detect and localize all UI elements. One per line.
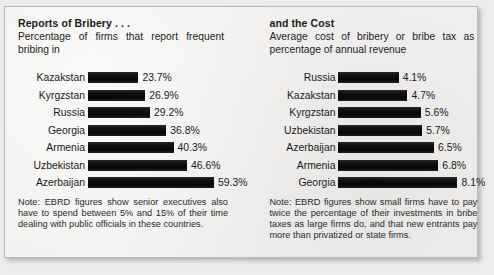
bar-row: Azerbaijan59.3% (18, 174, 247, 192)
bar-rect (88, 125, 166, 136)
bar-category-label: Kazakstan (269, 90, 335, 101)
bar-row: Kyrgzstan26.9% (18, 87, 247, 105)
chart-subtitle-cost: Average cost of bribery or bribe tax as … (269, 31, 474, 56)
bar-row: Georgia8.1% (269, 174, 485, 192)
bar-chart-cost: Russia4.1%Kazakstan4.7%Kyrgzstan5.6%Uzbe… (269, 69, 485, 192)
chart-note-bribery: Note: EBRD figures show senior executive… (18, 197, 228, 230)
bar-category-label: Azerbaijan (18, 177, 85, 188)
bar-value-label: 40.3% (178, 142, 207, 153)
bar-row: Uzbekistan46.6% (18, 157, 247, 175)
bar-rect (88, 90, 145, 101)
bar-value-label: 4.1% (403, 72, 427, 83)
bar-rect (338, 90, 407, 101)
bar-value-label: 5.6% (425, 107, 449, 118)
bar-rect (338, 125, 422, 136)
bar-value-label: 26.9% (149, 90, 178, 101)
bar-category-label: Uzbekistan (269, 125, 335, 136)
chart-note-cost: Note: EBRD figures show small firms have… (269, 197, 477, 241)
bar-value-label: 8.1% (461, 177, 485, 188)
bar-category-label: Russia (269, 72, 335, 83)
bar-category-label: Kyrgzstan (269, 107, 335, 118)
bar-category-label: Georgia (18, 125, 85, 136)
bar-row: Azerbaijan6.5% (269, 139, 485, 157)
bar-rect (338, 142, 434, 153)
bar-value-label: 23.7% (142, 72, 171, 83)
bar-row: Kazakstan4.7% (269, 87, 485, 105)
bar-row: Russia29.2% (18, 104, 247, 122)
bar-chart-bribery: Kazakstan23.7%Kyrgzstan26.9%Russia29.2%G… (18, 69, 247, 192)
bar-value-label: 5.7% (426, 125, 450, 136)
bar-category-label: Kyrgzstan (18, 90, 85, 101)
bar-row: Armenia6.8% (269, 157, 485, 175)
bar-rect (88, 107, 150, 118)
bar-value-label: 59.3% (218, 177, 247, 188)
bar-rect (88, 142, 174, 153)
bar-value-label: 4.7% (411, 90, 435, 101)
bar-category-label: Kazakstan (18, 72, 85, 83)
bar-rect (88, 177, 214, 188)
bar-value-label: 36.8% (170, 125, 199, 136)
bar-rect (338, 177, 457, 188)
bar-rect (338, 72, 398, 83)
bar-category-label: Georgia (269, 177, 335, 188)
bar-category-label: Armenia (269, 160, 335, 171)
bar-category-label: Azerbaijan (269, 142, 335, 153)
chart-panel-cost: and the Cost Average cost of bribery or … (259, 7, 494, 257)
bar-rect (338, 107, 420, 118)
panel-columns: Reports of Bribery . . . Percentage of f… (5, 7, 477, 257)
chart-title-cost: and the Cost (269, 17, 485, 30)
chart-subtitle-bribery: Percentage of firms that report frequent… (18, 31, 224, 56)
bar-row: Uzbekistan5.7% (269, 122, 485, 140)
bar-value-label: 46.6% (191, 160, 220, 171)
bar-row: Georgia36.8% (18, 122, 247, 140)
bar-rect (88, 160, 187, 171)
bar-row: Kyrgzstan5.6% (269, 104, 485, 122)
bar-row: Armenia40.3% (18, 139, 247, 157)
bar-category-label: Russia (18, 107, 85, 118)
bar-row: Russia4.1% (269, 69, 485, 87)
chart-title-bribery: Reports of Bribery . . . (18, 17, 247, 30)
bar-row: Kazakstan23.7% (18, 69, 247, 87)
infographic-panel: Reports of Bribery . . . Percentage of f… (4, 6, 478, 258)
bar-value-label: 29.2% (154, 107, 183, 118)
bar-rect (338, 160, 438, 171)
bar-category-label: Armenia (18, 142, 85, 153)
bar-category-label: Uzbekistan (18, 160, 85, 171)
bar-value-label: 6.5% (438, 142, 462, 153)
bar-rect (88, 72, 138, 83)
scan-background: Reports of Bribery . . . Percentage of f… (0, 0, 494, 275)
bar-value-label: 6.8% (442, 160, 466, 171)
chart-panel-bribery: Reports of Bribery . . . Percentage of f… (5, 7, 259, 257)
